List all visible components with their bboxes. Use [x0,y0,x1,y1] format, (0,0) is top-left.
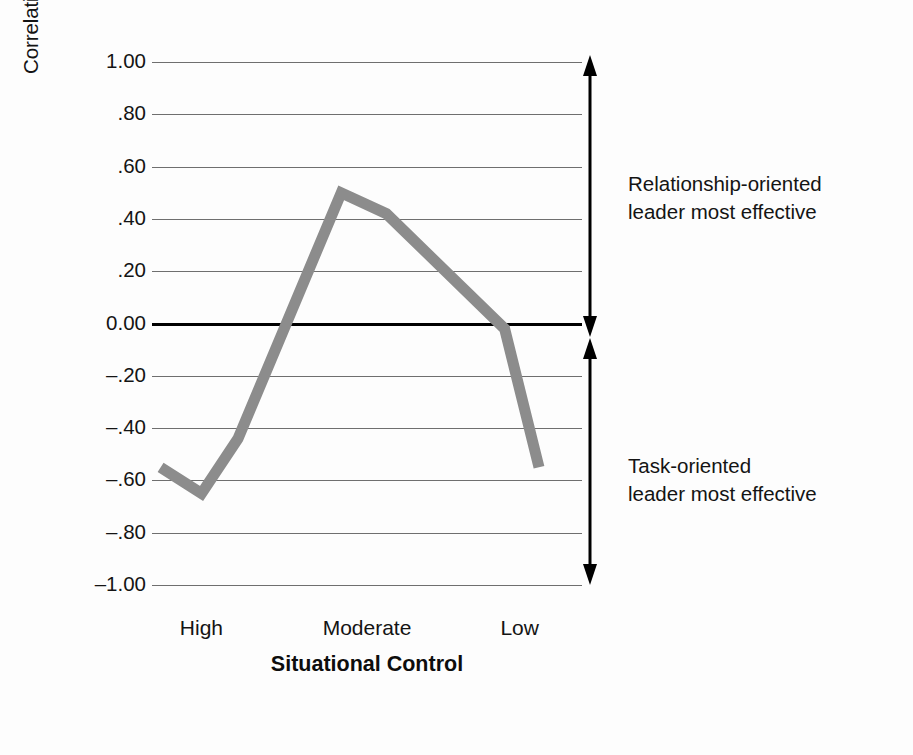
annotation-bottom-line1: Task-oriented [628,452,898,480]
x-tick-label: High [180,613,223,643]
x-axis-title: Situational Control [152,652,582,677]
annotation-relationship-oriented: Relationship-oriented leader most effect… [628,170,898,226]
y-tick-label: .20 [68,260,146,280]
upper-arrow-head-bottom [583,316,597,337]
annotation-bottom-line2: leader most effective [628,480,898,508]
y-tick-label: 0.00 [68,313,146,333]
lower-arrow-head-bottom [583,564,597,585]
lower-arrow-head-top [583,338,597,359]
y-tick-label: .40 [68,208,146,228]
y-tick-label: –1.00 [68,574,146,594]
y-tick-label: –.40 [68,417,146,437]
x-tick-label: Low [500,613,539,643]
x-tick-label: Moderate [323,613,412,643]
y-tick-label: .80 [68,103,146,123]
y-axis-label: Correlation of Leadership Style and Grou… [14,0,48,74]
chart-figure: Correlation of Leadership Style and Grou… [0,0,913,755]
annotation-top-line1: Relationship-oriented [628,170,898,198]
series-line [161,193,539,494]
y-axis-label-container: Correlation of Leadership Style and Grou… [0,0,60,620]
annotation-bracket [570,0,610,755]
y-tick-label: –.80 [68,522,146,542]
y-tick-label: 1.00 [68,51,146,71]
annotation-task-oriented: Task-oriented leader most effective [628,452,898,508]
annotation-top-line2: leader most effective [628,198,898,226]
y-tick-label: .60 [68,156,146,176]
y-tick-label: –.60 [68,469,146,489]
y-tick-label: –.20 [68,365,146,385]
upper-arrow-head-top [583,55,597,76]
x-axis-tick-labels: HighModerateLow [120,613,640,647]
bracket-arrows-svg [570,0,610,755]
